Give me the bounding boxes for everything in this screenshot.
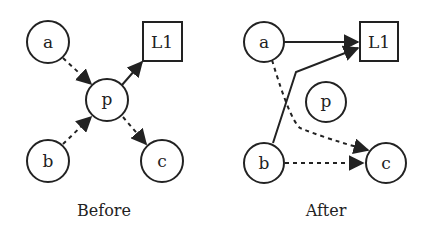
caption-after: After <box>305 201 347 220</box>
edge-p-L1 <box>122 62 142 85</box>
edge-b-p <box>63 117 91 144</box>
label-c: c <box>381 153 391 173</box>
edge-a-p <box>63 58 91 84</box>
label-L1: L1 <box>368 32 390 52</box>
panel-before: a p b c L1 Before <box>27 21 183 220</box>
label-p: p <box>102 89 113 109</box>
panel-after: a p b c L1 After <box>244 22 406 220</box>
label-a: a <box>259 32 269 52</box>
caption-before: Before <box>77 201 131 220</box>
diagram-canvas: a p b c L1 Before a p b c L1 After <box>0 0 431 230</box>
label-b: b <box>259 153 270 173</box>
label-c: c <box>157 151 167 171</box>
label-b: b <box>43 151 54 171</box>
edge-p-c <box>123 117 146 144</box>
label-a: a <box>43 32 53 52</box>
label-p: p <box>321 91 332 111</box>
label-L1: L1 <box>151 32 173 52</box>
